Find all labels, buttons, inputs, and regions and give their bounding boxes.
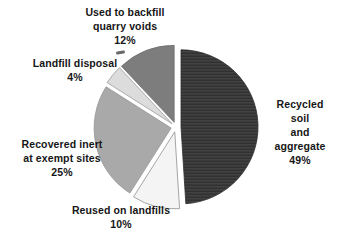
pie-slice-0 — [181, 50, 258, 204]
pie-chart-figure: Used to backfill quarry voids 12% Landfi… — [0, 0, 342, 244]
slice-label-recovered-inert-at-exempt-sites: Recovered inert at exempt sites 25% — [22, 137, 103, 179]
slice-label-used-to-backfill-quarry-voids: Used to backfill quarry voids 12% — [85, 5, 164, 47]
slice-label-recycled-soil-and-aggregate: Recycled soil and aggregate 49% — [274, 97, 325, 167]
slice-label-landfill-disposal: Landfill disposal 4% — [33, 56, 118, 84]
slice-label-reused-on-landfills: Reused on landfills 10% — [72, 203, 170, 231]
